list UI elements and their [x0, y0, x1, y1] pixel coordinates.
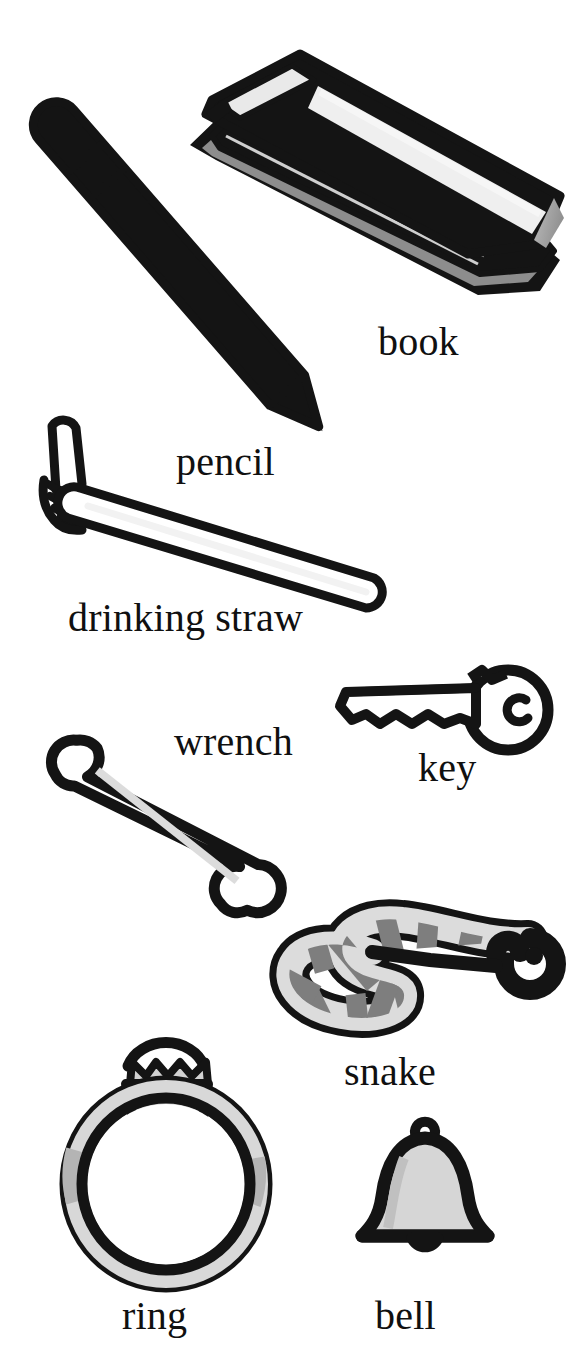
illustration-page: book — [0, 0, 587, 1357]
snake-label: snake — [344, 1052, 436, 1092]
key-label: key — [418, 748, 476, 788]
drinking-straw-label: drinking straw — [68, 598, 303, 638]
ring-illustration — [50, 1000, 285, 1290]
snake-illustration — [252, 898, 562, 1068]
ring-label: ring — [122, 1296, 187, 1336]
wrench-label: wrench — [174, 722, 293, 762]
bell-label: bell — [375, 1296, 436, 1336]
bell-illustration — [348, 1110, 503, 1275]
drinking-straw-illustration — [22, 418, 412, 618]
